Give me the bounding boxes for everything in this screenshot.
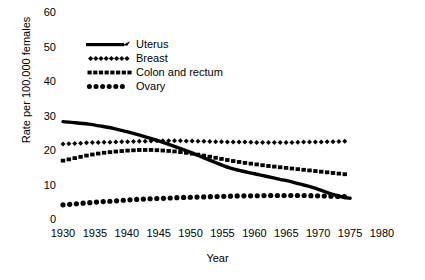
series-marker bbox=[143, 148, 147, 152]
series-marker bbox=[90, 153, 94, 157]
series-marker bbox=[302, 193, 307, 198]
series-marker bbox=[284, 166, 288, 170]
series-marker bbox=[147, 196, 152, 201]
series-marker bbox=[237, 140, 242, 145]
series-marker bbox=[342, 194, 347, 199]
series-marker bbox=[120, 149, 124, 153]
series-marker bbox=[219, 139, 224, 144]
series-marker bbox=[188, 195, 193, 200]
series-marker bbox=[102, 151, 106, 155]
series-marker bbox=[134, 197, 139, 202]
series-marker bbox=[207, 139, 212, 144]
series-marker bbox=[84, 140, 89, 145]
series-marker bbox=[161, 196, 166, 201]
series-marker bbox=[67, 157, 71, 161]
series-marker bbox=[307, 169, 311, 173]
series-marker bbox=[172, 150, 176, 154]
series-marker bbox=[301, 168, 305, 172]
series-marker bbox=[81, 201, 86, 206]
series-marker bbox=[121, 198, 126, 203]
chart-container: Rate per 100,000 females Year 0102030405… bbox=[0, 0, 425, 280]
series-marker bbox=[208, 155, 212, 159]
series-marker bbox=[231, 159, 235, 163]
series-marker bbox=[275, 193, 280, 198]
series-ovary bbox=[60, 193, 347, 208]
series-marker bbox=[301, 140, 306, 145]
series-marker bbox=[125, 149, 129, 153]
series-marker bbox=[335, 194, 340, 199]
series-marker bbox=[172, 138, 177, 143]
series-marker bbox=[61, 159, 65, 163]
series-marker bbox=[325, 139, 330, 144]
series-marker bbox=[242, 140, 247, 145]
series-marker bbox=[107, 140, 112, 145]
series-marker bbox=[241, 193, 246, 198]
series-marker bbox=[278, 165, 282, 169]
series-marker bbox=[260, 163, 264, 167]
series-marker bbox=[328, 194, 333, 199]
series-marker bbox=[213, 156, 217, 160]
series-marker bbox=[113, 139, 118, 144]
series-marker bbox=[174, 195, 179, 200]
series-marker bbox=[290, 167, 294, 171]
series-marker bbox=[281, 193, 286, 198]
series-marker bbox=[194, 194, 199, 199]
series-marker bbox=[331, 171, 335, 175]
series-marker bbox=[255, 163, 259, 167]
series-marker bbox=[78, 155, 82, 159]
series-marker bbox=[228, 194, 233, 199]
series-marker bbox=[214, 194, 219, 199]
series-line bbox=[63, 122, 350, 199]
series-marker bbox=[84, 154, 88, 158]
series-marker bbox=[249, 162, 253, 166]
series-marker bbox=[255, 193, 260, 198]
series-marker bbox=[343, 172, 347, 176]
series-marker bbox=[178, 138, 183, 143]
series-marker bbox=[60, 202, 65, 207]
series-marker bbox=[336, 139, 341, 144]
series-marker bbox=[295, 193, 300, 198]
series-marker bbox=[166, 149, 170, 153]
series-marker bbox=[266, 140, 271, 145]
series-marker bbox=[94, 200, 99, 205]
series-marker bbox=[114, 150, 118, 154]
series-marker bbox=[161, 149, 165, 153]
series-marker bbox=[137, 148, 141, 152]
series-marker bbox=[284, 140, 289, 145]
series-marker bbox=[190, 152, 194, 156]
series-marker bbox=[184, 138, 189, 143]
series-marker bbox=[272, 165, 276, 169]
series-marker bbox=[213, 139, 218, 144]
series-marker bbox=[78, 141, 83, 146]
series-marker bbox=[243, 161, 247, 165]
series-marker bbox=[261, 193, 266, 198]
series-marker bbox=[155, 148, 159, 152]
series-marker bbox=[141, 196, 146, 201]
series-marker bbox=[61, 142, 66, 147]
series-marker bbox=[149, 148, 153, 152]
series-marker bbox=[295, 140, 300, 145]
series-marker bbox=[90, 140, 95, 145]
series-marker bbox=[266, 164, 270, 168]
series-marker bbox=[322, 193, 327, 198]
series-marker bbox=[237, 160, 241, 164]
series-marker bbox=[181, 195, 186, 200]
series-marker bbox=[221, 194, 226, 199]
series-marker bbox=[107, 199, 112, 204]
series-marker bbox=[331, 139, 336, 144]
plot-area bbox=[0, 0, 425, 280]
series-marker bbox=[119, 139, 124, 144]
series-marker bbox=[66, 141, 71, 146]
series-marker bbox=[288, 193, 293, 198]
series-marker bbox=[231, 140, 236, 145]
series-marker bbox=[278, 140, 283, 145]
series-marker bbox=[307, 140, 312, 145]
series-marker bbox=[272, 140, 277, 145]
series-marker bbox=[196, 139, 201, 144]
series-marker bbox=[137, 139, 142, 144]
series-marker bbox=[154, 196, 159, 201]
series-marker bbox=[337, 172, 341, 176]
series-marker bbox=[235, 193, 240, 198]
series-marker bbox=[74, 201, 79, 206]
series-marker bbox=[254, 140, 259, 145]
